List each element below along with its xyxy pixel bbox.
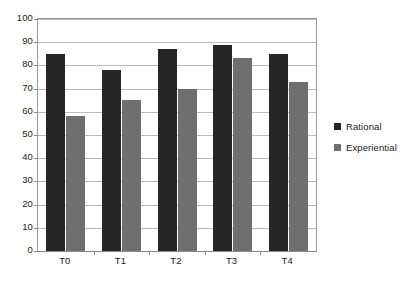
x-axis-tick-label-t3: T3 [226, 256, 237, 266]
bar-group [269, 19, 308, 251]
x-axis-tick-label-t2: T2 [170, 256, 181, 266]
y-axis-tick [34, 112, 38, 113]
legend-label: Rational [346, 122, 382, 132]
y-axis-tick [34, 89, 38, 90]
y-axis-tick-label: 80 [22, 60, 33, 70]
x-axis-tick [260, 251, 261, 255]
y-axis-tick [34, 205, 38, 206]
y-axis-tick [34, 158, 38, 159]
y-axis-tick-label: 10 [22, 222, 33, 232]
x-axis-tick-labels: T0T1T2T3T4 [37, 256, 317, 272]
y-axis-tick-label: 20 [22, 199, 33, 209]
y-axis-tick-label: 60 [22, 106, 33, 116]
bar-rational-t3 [213, 45, 232, 251]
bar-experiential-t4 [289, 82, 308, 251]
bar-group [213, 19, 252, 251]
y-axis-tick [34, 42, 38, 43]
bar-experiential-t3 [233, 58, 252, 251]
legend-item-experiential: Experiential [334, 139, 409, 156]
bar-experiential-t0 [66, 116, 85, 251]
bar-experiential-t2 [178, 89, 197, 251]
legend-swatch-icon [334, 123, 341, 130]
x-axis-tick [149, 251, 150, 255]
bar-group [46, 19, 85, 251]
y-axis-tick-label: 30 [22, 176, 33, 186]
plot-area [37, 18, 317, 252]
y-axis-tick-label: 90 [22, 36, 33, 46]
x-axis-tick-label-t1: T1 [115, 256, 126, 266]
y-axis-tick-labels: 0102030405060708090100 [0, 18, 33, 252]
y-axis-tick-label: 40 [22, 152, 33, 162]
bar-rational-t2 [158, 49, 177, 251]
legend-label: Experiential [346, 143, 397, 153]
bar-chart: 0102030405060708090100 T0T1T2T3T4 Ration… [0, 0, 409, 284]
y-axis-tick-label: 70 [22, 83, 33, 93]
bar-experiential-t1 [122, 100, 141, 251]
bar-rational-t0 [46, 54, 65, 251]
y-axis-tick [34, 19, 38, 20]
y-axis-tick [34, 135, 38, 136]
x-axis-tick [205, 251, 206, 255]
y-axis-tick-label: 100 [17, 13, 33, 23]
y-axis-tick [34, 181, 38, 182]
y-axis-tick-label: 50 [22, 129, 33, 139]
y-axis-tick-label: 0 [28, 245, 33, 255]
legend-item-rational: Rational [334, 118, 409, 135]
x-axis-tick-label-t0: T0 [59, 256, 70, 266]
bar-rational-t1 [102, 70, 121, 251]
legend-swatch-icon [334, 144, 341, 151]
bar-rational-t4 [269, 54, 288, 251]
y-axis-tick [34, 228, 38, 229]
x-axis-tick-label-t4: T4 [282, 256, 293, 266]
bar-group [102, 19, 141, 251]
chart-legend: RationalExperiential [334, 118, 409, 160]
y-axis-tick [34, 251, 38, 252]
y-axis-tick [34, 65, 38, 66]
bar-group [158, 19, 197, 251]
x-axis-tick [94, 251, 95, 255]
